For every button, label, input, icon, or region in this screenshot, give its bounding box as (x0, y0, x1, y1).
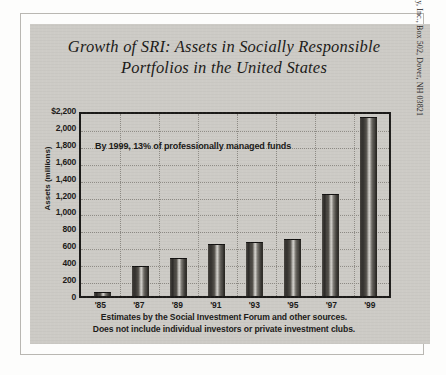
y-tick-label: $2,200 (51, 106, 76, 116)
y-tick-label: 1,200 (56, 191, 76, 201)
y-tick-label: 1,800 (56, 140, 76, 150)
figure-page: Growth of SRI: Assets in Socially Respon… (0, 0, 446, 375)
y-tick-label: 2,000 (56, 123, 76, 133)
bar-87 (132, 266, 149, 296)
bar-slot (311, 114, 349, 296)
y-axis-labels: $2,2002,0001,8001,6001,4001,2001,0008006… (34, 105, 76, 305)
x-tick-label: '95 (274, 300, 313, 310)
chart-title: Growth of SRI: Assets in Socially Respon… (48, 36, 400, 78)
plot-area: Assets (millions) $2,2002,0001,8001,6001… (79, 112, 391, 298)
bar-slot (349, 114, 387, 296)
x-tick-label: '87 (120, 300, 159, 310)
y-tick-label: 200 (62, 275, 76, 285)
footnote-line-2: Does not include individual investors or… (48, 324, 400, 336)
chart-annotation: By 1999, 13% of professionally managed f… (95, 141, 291, 151)
bar-93 (246, 242, 263, 296)
bar-91 (208, 244, 225, 296)
chart-panel: Growth of SRI: Assets in Socially Respon… (30, 24, 430, 344)
y-tick-label: 1,600 (56, 157, 76, 167)
x-tick-label: '97 (312, 300, 351, 310)
y-tick-label: 600 (62, 241, 76, 251)
bar-99 (360, 117, 377, 296)
y-tick-label: 1,000 (56, 207, 76, 217)
x-tick-label: '89 (158, 300, 197, 310)
bar-89 (170, 258, 187, 296)
source-credit: Source: Good Money, Inc., Box 502, Dover… (415, 0, 424, 116)
bar-95 (284, 239, 301, 296)
y-tick-label: 0 (71, 292, 76, 302)
x-tick-label: '85 (81, 300, 120, 310)
x-tick-label: '91 (197, 300, 236, 310)
y-tick-label: 800 (62, 224, 76, 234)
x-tick-label: '93 (235, 300, 274, 310)
plot-frame: By 1999, 13% of professionally managed f… (79, 112, 391, 298)
bar-85 (94, 292, 111, 296)
x-axis-labels: '85'87'89'91'93'95'97'99 (79, 300, 391, 310)
footnote-line-1: Estimates by the Social Investment Forum… (48, 312, 400, 324)
y-tick-label: 400 (62, 258, 76, 268)
chart-footnote: Estimates by the Social Investment Forum… (48, 312, 400, 335)
bar-97 (322, 194, 339, 296)
y-tick-label: 1,400 (56, 174, 76, 184)
x-tick-label: '99 (351, 300, 390, 310)
